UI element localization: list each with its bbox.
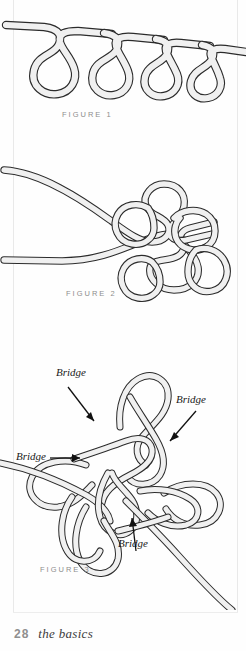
figure-2-illustration: .r2{fill:none;stroke:#2b2b2b;stroke-widt… <box>0 150 246 310</box>
rope-loop-lower-right <box>188 248 227 291</box>
figure-1-illustration: .rope{fill:none;stroke:#2b2b2b;stroke-wi… <box>0 0 246 140</box>
bridge-arrow-upper-right <box>170 411 196 441</box>
bridge-label-upper-right: Bridge <box>176 393 206 405</box>
figure-3-rope <box>0 376 232 610</box>
figure-2-caption: FIGURE 2 <box>66 289 117 298</box>
rope-loop-4 <box>190 45 246 98</box>
bridge-label-mid-left: Bridge <box>16 450 46 462</box>
page-number: 28 <box>14 627 29 641</box>
figure-3-caption: FIGURE 3 <box>40 565 91 574</box>
rope-tail-left <box>0 463 110 521</box>
page-rule-bottom <box>13 612 238 613</box>
page-footer: 28 the basics <box>14 626 93 642</box>
figure-1-caption: FIGURE 1 <box>62 110 113 119</box>
book-page: .rope{fill:none;stroke:#2b2b2b;stroke-wi… <box>0 0 246 651</box>
rope-strand-bottom-left <box>62 497 100 561</box>
figure-1-rope <box>6 25 246 98</box>
bridge-arrow-upper-left <box>68 387 94 421</box>
figure-3-illustration: .r3{fill:none;stroke:#2b2b2b;stroke-widt… <box>0 345 246 610</box>
rope-strand-lower <box>4 222 214 290</box>
figure-2-rope <box>4 170 227 298</box>
bridge-label-bottom: Bridge <box>118 537 148 549</box>
running-head: the basics <box>38 626 93 642</box>
bridge-label-upper-left: Bridge <box>56 366 86 378</box>
